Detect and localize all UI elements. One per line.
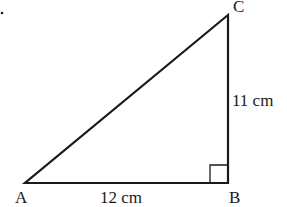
side-label-ab: 12 cm	[100, 188, 142, 207]
stray-dot	[1, 12, 4, 15]
triangle-abc	[25, 15, 228, 183]
vertex-label-c: C	[233, 0, 244, 16]
side-label-bc: 11 cm	[232, 91, 273, 110]
vertex-label-a: A	[15, 188, 28, 207]
triangle-svg: A B C 12 cm 11 cm	[0, 0, 287, 207]
triangle-diagram: A B C 12 cm 11 cm	[0, 0, 287, 207]
vertex-label-b: B	[229, 188, 240, 207]
right-angle-marker	[210, 165, 228, 183]
